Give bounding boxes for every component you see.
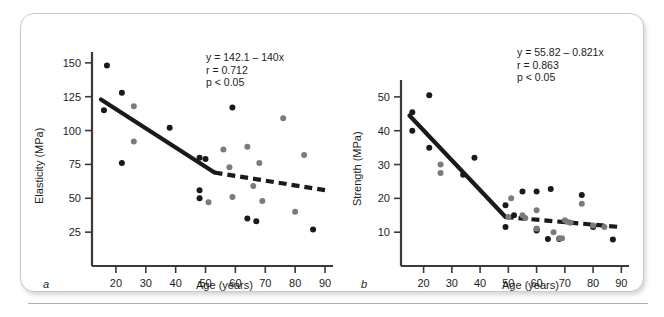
- regression-line-dashed: [214, 173, 325, 191]
- footer-divider: [28, 303, 648, 304]
- y-tick-label: 30: [378, 159, 390, 171]
- x-tick-label: 70: [559, 277, 571, 289]
- data-point: [101, 107, 107, 113]
- x-axis-title-a: Age (years): [196, 279, 253, 291]
- x-tick-label: 30: [140, 277, 152, 289]
- scatter-plot-a: 2550751001251502030405060708090: [21, 14, 351, 293]
- data-point: [551, 229, 557, 235]
- y-tick-label: 100: [63, 125, 81, 137]
- regression-line-solid: [409, 116, 505, 217]
- data-point: [244, 216, 250, 222]
- data-point: [226, 164, 232, 170]
- y-axis-title-a: Elasticity (MPa): [33, 128, 45, 204]
- x-tick-label: 20: [110, 277, 122, 289]
- data-point: [579, 192, 585, 198]
- annotation-a: y = 142.1 – 140x r = 0.712 p < 0.05: [206, 51, 284, 89]
- data-point: [119, 90, 125, 96]
- data-point: [579, 201, 585, 207]
- data-point: [229, 194, 235, 200]
- data-point: [534, 189, 540, 195]
- panel-letter-b: b: [361, 278, 367, 290]
- data-point: [250, 183, 256, 189]
- panel-letter-a: a: [43, 278, 49, 290]
- data-point: [590, 222, 596, 228]
- data-point: [131, 103, 137, 109]
- figure-container: 2550751001251502030405060708090 Elastici…: [20, 13, 644, 292]
- data-point: [503, 202, 509, 208]
- data-point: [471, 155, 477, 161]
- data-point: [119, 160, 125, 166]
- annotation-b: y = 55.82 – 0.821x r = 0.863 p < 0.05: [517, 46, 604, 84]
- x-tick-label: 90: [615, 277, 627, 289]
- data-point: [534, 226, 540, 232]
- data-point: [310, 226, 316, 232]
- y-tick-label: 10: [378, 226, 390, 238]
- y-tick-label: 150: [63, 57, 81, 69]
- data-point: [505, 214, 511, 220]
- annotation-b-r: r = 0.863: [517, 59, 604, 72]
- data-point: [131, 138, 137, 144]
- data-point: [519, 189, 525, 195]
- data-point: [292, 209, 298, 215]
- data-point: [503, 224, 509, 230]
- x-tick-label: 20: [417, 277, 429, 289]
- data-point: [568, 220, 574, 226]
- x-tick-label: 90: [319, 277, 331, 289]
- x-tick-label: 80: [587, 277, 599, 289]
- data-point: [206, 199, 212, 205]
- x-axis-title-b: Age (years): [502, 279, 559, 291]
- y-tick-label: 20: [378, 192, 390, 204]
- annotation-b-p: p < 0.05: [517, 71, 604, 84]
- y-tick-label: 25: [69, 226, 81, 238]
- data-point: [409, 109, 415, 115]
- data-point: [197, 195, 203, 201]
- data-point: [167, 125, 173, 131]
- data-point: [545, 236, 551, 242]
- y-axis-title-b: Strength (MPa): [351, 131, 363, 206]
- data-point: [256, 160, 262, 166]
- data-point: [259, 198, 265, 204]
- y-tick-label: 125: [63, 91, 81, 103]
- data-point: [511, 212, 517, 218]
- chart-panel-b: 10203040502030405060708090 Strength (MPa…: [339, 14, 645, 293]
- data-point: [438, 162, 444, 168]
- x-tick-label: 40: [170, 277, 182, 289]
- data-point: [203, 156, 209, 162]
- annotation-b-equation: y = 55.82 – 0.821x: [517, 46, 604, 59]
- data-point: [426, 145, 432, 151]
- data-point: [253, 218, 259, 224]
- data-point: [280, 115, 286, 121]
- data-point: [438, 170, 444, 176]
- data-point: [508, 195, 514, 201]
- annotation-a-equation: y = 142.1 – 140x: [206, 51, 284, 64]
- x-tick-label: 40: [474, 277, 486, 289]
- annotation-a-p: p < 0.05: [206, 76, 284, 89]
- data-point: [548, 186, 554, 192]
- y-tick-label: 40: [378, 125, 390, 137]
- data-point: [197, 155, 203, 161]
- data-point: [220, 147, 226, 153]
- x-tick-label: 30: [446, 277, 458, 289]
- x-tick-label: 80: [289, 277, 301, 289]
- x-tick-label: 70: [259, 277, 271, 289]
- data-point: [244, 144, 250, 150]
- data-point: [426, 92, 432, 98]
- data-point: [104, 63, 110, 69]
- data-point: [229, 105, 235, 111]
- chart-panel-a: 2550751001251502030405060708090 Elastici…: [21, 14, 351, 293]
- data-point: [301, 152, 307, 158]
- data-point: [460, 172, 466, 178]
- data-point: [197, 187, 203, 193]
- y-tick-label: 75: [69, 158, 81, 170]
- data-point: [522, 215, 528, 221]
- y-tick-label: 50: [378, 91, 390, 103]
- data-point: [534, 207, 540, 213]
- data-point: [601, 224, 607, 230]
- y-tick-label: 50: [69, 192, 81, 204]
- data-point: [610, 237, 616, 243]
- data-point: [409, 128, 415, 134]
- data-point: [559, 235, 565, 241]
- annotation-a-r: r = 0.712: [206, 64, 284, 77]
- regression-line-solid: [101, 99, 215, 172]
